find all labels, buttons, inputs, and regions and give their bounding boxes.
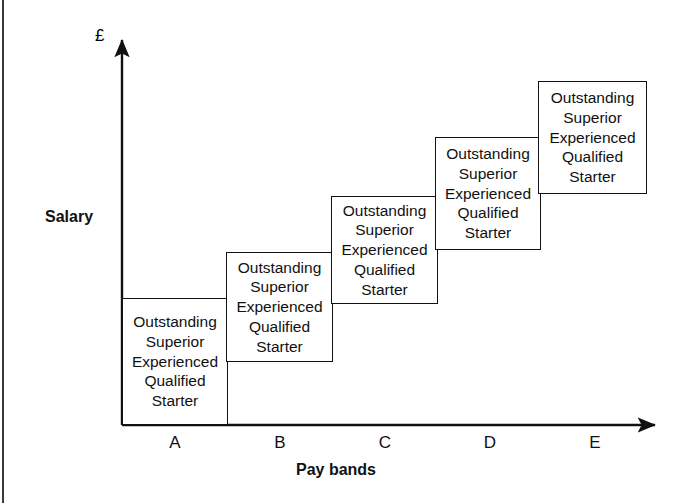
grade-outstanding: Outstanding xyxy=(551,88,635,108)
x-axis-tick-c: C xyxy=(365,434,405,451)
grade-outstanding: Outstanding xyxy=(446,144,530,164)
band-box-c[interactable]: Outstanding Superior Experienced Qualifi… xyxy=(331,196,438,304)
grade-qualified: Qualified xyxy=(562,147,623,167)
grade-outstanding: Outstanding xyxy=(343,201,427,221)
band-box-d[interactable]: Outstanding Superior Experienced Qualifi… xyxy=(435,137,541,250)
grade-qualified: Qualified xyxy=(249,317,310,337)
x-axis-tick-a: A xyxy=(155,434,195,451)
pay-band-diagram: £ Salary Outstanding Superior Experience… xyxy=(0,0,685,503)
grade-qualified: Qualified xyxy=(144,371,205,391)
grade-starter: Starter xyxy=(361,280,408,300)
x-axis-tick-e: E xyxy=(575,434,615,451)
y-axis-label: Salary xyxy=(45,209,93,225)
grade-starter: Starter xyxy=(152,391,199,411)
band-box-e[interactable]: Outstanding Superior Experienced Qualifi… xyxy=(538,81,647,194)
grade-superior: Superior xyxy=(355,220,414,240)
grade-outstanding: Outstanding xyxy=(133,312,217,332)
grade-qualified: Qualified xyxy=(457,203,518,223)
grade-starter: Starter xyxy=(256,337,303,357)
grade-starter: Starter xyxy=(569,167,616,187)
x-axis-tick-d: D xyxy=(470,434,510,451)
x-axis-label: Pay bands xyxy=(296,462,376,478)
grade-experienced: Experienced xyxy=(549,128,635,148)
grade-experienced: Experienced xyxy=(445,184,531,204)
grade-experienced: Experienced xyxy=(341,240,427,260)
grade-superior: Superior xyxy=(250,277,309,297)
grade-superior: Superior xyxy=(459,164,518,184)
band-box-a[interactable]: Outstanding Superior Experienced Qualifi… xyxy=(122,298,228,425)
grade-superior: Superior xyxy=(146,332,205,352)
y-axis-unit-symbol: £ xyxy=(95,27,104,44)
grade-superior: Superior xyxy=(563,108,622,128)
grade-qualified: Qualified xyxy=(354,260,415,280)
x-axis-tick-b: B xyxy=(260,434,300,451)
band-box-b[interactable]: Outstanding Superior Experienced Qualifi… xyxy=(226,252,333,362)
grade-starter: Starter xyxy=(465,223,512,243)
grade-outstanding: Outstanding xyxy=(238,258,322,278)
grade-experienced: Experienced xyxy=(236,297,322,317)
grade-experienced: Experienced xyxy=(132,352,218,372)
